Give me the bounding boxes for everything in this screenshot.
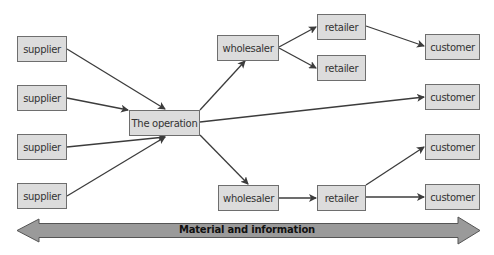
customer-box-2: customer [425, 84, 480, 110]
supplier-box-4: supplier [17, 183, 67, 209]
wholesaler-top-box: wholesaler [217, 35, 279, 61]
supplier-box-3: supplier [17, 134, 67, 160]
retailer-top-box-2: retailer [317, 55, 366, 81]
edge-retailer1-customer1 [366, 26, 424, 46]
operation-box: The operation [129, 110, 200, 136]
edge-wholesaler-top-retailer2 [279, 48, 316, 68]
supplier-box-2: supplier [17, 85, 67, 111]
retailer-bottom-box: retailer [317, 185, 366, 211]
edge-operation-wholesaler-bottom [200, 135, 248, 184]
supplier-box-1: supplier [17, 36, 67, 62]
edge-retailer-bottom-customer3 [366, 147, 424, 185]
retailer-top-box-1: retailer [317, 14, 366, 40]
customer-box-4: customer [425, 184, 480, 210]
edge-operation-customer2 [200, 97, 424, 122]
edge-wholesaler-top-retailer1 [279, 27, 316, 47]
edge-operation-wholesaler-top [200, 61, 245, 110]
wholesaler-bottom-box: wholesaler [218, 185, 279, 211]
customer-box-1: customer [425, 34, 480, 60]
customer-box-3: customer [425, 134, 480, 160]
edge-supplier1-operation [67, 49, 165, 109]
flow-arrow-label: Material and information [0, 224, 494, 235]
edge-supplier2-operation [67, 98, 128, 110]
